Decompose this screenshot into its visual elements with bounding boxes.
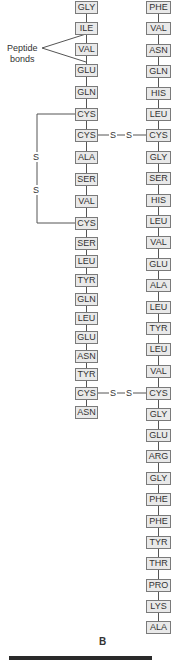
- chain-b-residue-30: ALA: [146, 621, 171, 634]
- intra-chain-disulfide-bracket: [37, 114, 75, 223]
- chain-b-residue-3: ASN: [146, 44, 171, 57]
- chain-b-residue-26: TYR: [146, 536, 171, 549]
- chain-b-residue-23: GLY: [146, 472, 171, 485]
- sulfur-label: S: [32, 152, 40, 162]
- figure-caption: B: [99, 636, 106, 647]
- chain-a-residue-19: TYR: [75, 368, 98, 381]
- sulfur-label: S: [109, 130, 117, 140]
- chain-a-residue-12: SER: [75, 237, 98, 250]
- chain-b-residue-14: ALA: [146, 279, 171, 292]
- chain-a-residue-8: ALA: [75, 151, 98, 164]
- chain-a-residue-10: VAL: [75, 195, 98, 208]
- chain-b-residue-29: LYS: [146, 600, 171, 613]
- chain-b-residue-18: VAL: [146, 365, 171, 378]
- chain-b-residue-1: PHE: [146, 1, 171, 14]
- chain-b-residue-10: HIS: [146, 194, 171, 207]
- chain-b-residue-7: CYS: [146, 129, 171, 142]
- chain-b-residue-11: LEU: [146, 215, 171, 228]
- chain-a-residue-5: GLN: [75, 86, 98, 99]
- chain-a-residue-13: LEU: [75, 255, 98, 268]
- chain-b-residue-8: GLY: [146, 151, 171, 164]
- chain-a-residue-11: CYS: [75, 217, 98, 230]
- chain-b-residue-2: VAL: [146, 22, 171, 35]
- chain-a-residue-21: ASN: [75, 406, 98, 419]
- chain-a-residue-9: SER: [75, 173, 98, 186]
- chain-a-residue-1: GLY: [75, 1, 98, 14]
- chain-b-residue-24: PHE: [146, 493, 171, 506]
- sulfur-label: S: [125, 388, 133, 398]
- chain-b-residue-13: GLU: [146, 258, 171, 271]
- chain-b-residue-9: SER: [146, 172, 171, 185]
- sulfur-label: S: [125, 130, 133, 140]
- chain-a-residue-17: GLU: [75, 331, 98, 344]
- sulfur-label: S: [32, 185, 40, 195]
- chain-a-residue-18: ASN: [75, 350, 98, 363]
- chain-b-residue-4: GLN: [146, 65, 171, 78]
- chain-a-residue-4: GLU: [75, 64, 98, 77]
- chain-b-residue-12: VAL: [146, 236, 171, 249]
- chain-b-residue-20: GLY: [146, 408, 171, 421]
- chain-b-residue-16: TYR: [146, 322, 171, 335]
- sulfur-label: S: [109, 388, 117, 398]
- chain-a-residue-7: CYS: [75, 129, 98, 142]
- peptide-bonds-label-line2: bonds: [10, 54, 35, 64]
- chain-b-residue-27: THR: [146, 557, 171, 570]
- chain-a-residue-16: LEU: [75, 312, 98, 325]
- chain-b-residue-21: GLU: [146, 429, 171, 442]
- chain-b-residue-15: LEU: [146, 301, 171, 314]
- peptide-bonds-label-line1: Peptide: [7, 43, 38, 53]
- chain-a-residue-6: CYS: [75, 108, 98, 121]
- chain-a-residue-20: CYS: [75, 387, 98, 400]
- chain-b-residue-22: ARG: [146, 450, 171, 463]
- chain-b-residue-5: HIS: [146, 87, 171, 100]
- bottom-bar: [9, 656, 152, 660]
- chain-b-residue-6: LEU: [146, 108, 171, 121]
- chain-b-residue-17: LEU: [146, 343, 171, 356]
- chain-a-residue-3: VAL: [75, 43, 98, 56]
- chain-b-residue-28: PRO: [146, 579, 171, 592]
- chain-b-residue-19: CYS: [146, 387, 171, 400]
- chain-b-residue-25: PHE: [146, 515, 171, 528]
- chain-a-residue-2: ILE: [75, 22, 98, 35]
- chain-a-residue-15: GLN: [75, 293, 98, 306]
- chain-a-residue-14: TYR: [75, 274, 98, 287]
